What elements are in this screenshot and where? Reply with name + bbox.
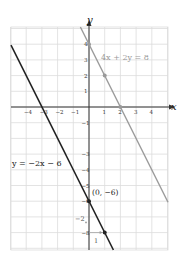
line-label-y-neg2x-6: y = −2x − 6: [11, 159, 62, 168]
y-tick-label: 2: [84, 73, 88, 79]
data-point: [103, 74, 107, 78]
rise-label: −2: [75, 215, 85, 223]
data-point: [118, 105, 122, 109]
x-tick-label: −4: [24, 109, 33, 115]
data-point: [87, 199, 91, 203]
x-tick-label: 3: [134, 109, 138, 115]
data-point: [87, 42, 91, 46]
point-annotation-0-neg6: (0, −6): [92, 188, 119, 197]
rise-marker: [85, 221, 87, 223]
data-point: [103, 231, 107, 235]
axes: [11, 20, 175, 250]
coordinate-plane: −4−3−2−112344321−1−3−4−5−6−8 y x 4x + 2y…: [0, 0, 181, 263]
y-tick-label: −1: [82, 120, 90, 126]
x-tick-label: 4: [150, 109, 154, 115]
x-tick-label: −2: [55, 109, 63, 115]
x-axis-label: x: [171, 101, 177, 112]
y-tick-label: 3: [84, 57, 88, 63]
x-tick-label: 1: [103, 109, 107, 115]
x-tick-label: −1: [71, 109, 79, 115]
y-tick-label: −8: [82, 230, 91, 236]
y-axis-label: y: [86, 14, 93, 25]
y-tick-label: 1: [84, 88, 88, 94]
run-arrow-head-icon: [100, 231, 103, 234]
y-tick-label: −3: [82, 151, 91, 157]
run-label: 1: [94, 237, 98, 245]
y-tick-label: −4: [82, 167, 91, 173]
line-label-4x-2y-8: 4x + 2y = 8: [101, 53, 149, 62]
